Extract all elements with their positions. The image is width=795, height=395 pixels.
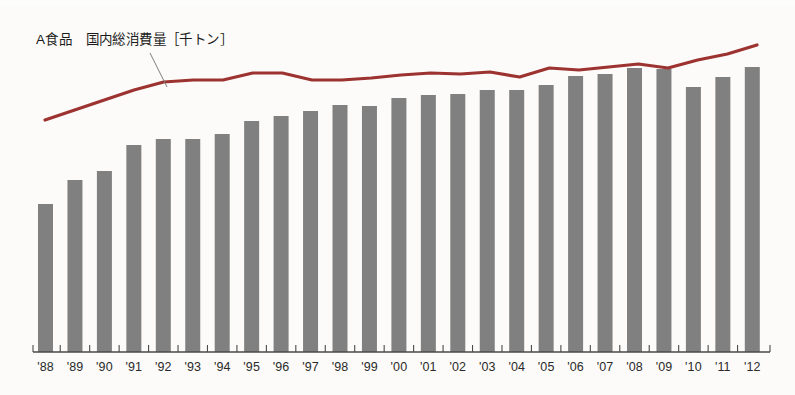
tick-label-y11: '11 (708, 360, 737, 374)
bar-y06 (568, 76, 583, 352)
bar-y94 (215, 134, 230, 352)
tick-label-y03: '03 (473, 360, 502, 374)
bar-y91 (126, 145, 141, 352)
tick-label-y99: '99 (355, 360, 384, 374)
bar-y12 (745, 67, 760, 352)
tick-label-y88: '88 (31, 360, 60, 374)
tick-label-y97: '97 (296, 360, 325, 374)
bar-y00 (391, 98, 406, 352)
chart-canvas (0, 0, 795, 395)
tick-label-y01: '01 (414, 360, 443, 374)
series-label: A食品 国内総消費量［千トン］ (36, 32, 233, 48)
bar-y92 (156, 139, 171, 352)
bar-y88 (38, 204, 53, 352)
tick-label-y09: '09 (649, 360, 678, 374)
bar-y96 (274, 116, 289, 352)
bar-y03 (480, 90, 495, 352)
tick-label-y05: '05 (531, 360, 560, 374)
bar-y09 (656, 69, 671, 352)
tick-label-y02: '02 (443, 360, 472, 374)
tick-label-y07: '07 (590, 360, 619, 374)
bar-y89 (67, 180, 82, 352)
tick-label-y92: '92 (149, 360, 178, 374)
bar-y93 (185, 139, 200, 352)
tick-label-y04: '04 (502, 360, 531, 374)
tick-label-y89: '89 (60, 360, 89, 374)
bar-series (38, 67, 760, 352)
bar-y11 (715, 77, 730, 352)
tick-label-y00: '00 (384, 360, 413, 374)
bar-y04 (509, 90, 524, 352)
chart-figure: A食品 国内総消費量［千トン］ '88'89'90'91'92'93'94'95… (0, 0, 795, 395)
bar-y08 (627, 68, 642, 352)
bar-y90 (97, 171, 112, 352)
bar-y01 (421, 95, 436, 352)
tick-label-y96: '96 (266, 360, 295, 374)
bar-y95 (244, 121, 259, 352)
tick-label-y93: '93 (178, 360, 207, 374)
tick-label-y12: '12 (738, 360, 767, 374)
tick-label-y08: '08 (620, 360, 649, 374)
bar-y10 (686, 87, 701, 352)
bar-y99 (362, 106, 377, 352)
bar-y07 (598, 74, 613, 352)
tick-label-y95: '95 (237, 360, 266, 374)
bar-y97 (303, 111, 318, 352)
tick-label-y91: '91 (119, 360, 148, 374)
tick-label-y90: '90 (90, 360, 119, 374)
bar-y02 (450, 94, 465, 352)
tick-label-y98: '98 (325, 360, 354, 374)
tick-label-y94: '94 (207, 360, 236, 374)
tick-label-y06: '06 (561, 360, 590, 374)
bar-y98 (333, 105, 348, 352)
tick-label-y10: '10 (679, 360, 708, 374)
bar-y05 (539, 85, 554, 352)
